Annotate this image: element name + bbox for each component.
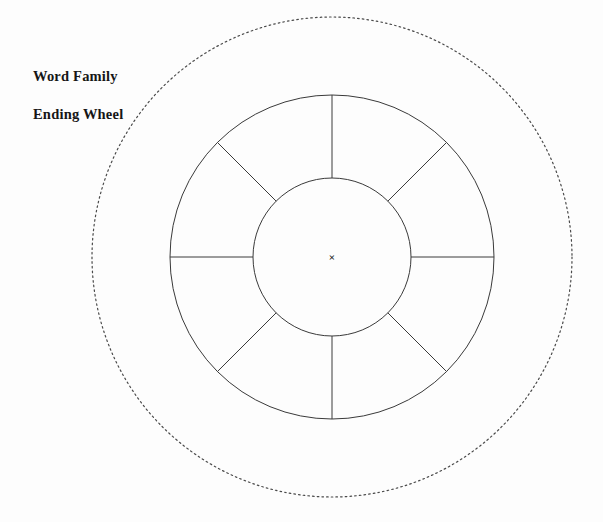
page-title-line-1: Word Family [33, 67, 123, 86]
center-cut-mark: × [329, 251, 335, 263]
spoke-down-left [217, 313, 276, 372]
spoke-up-right [388, 142, 447, 201]
page-title-line-2: Ending Wheel [33, 105, 123, 124]
page-title: Word Family Ending Wheel [33, 48, 123, 143]
spoke-down-right [388, 313, 447, 372]
spoke-up-left [217, 142, 276, 201]
worksheet-page: × Word Family Ending Wheel [0, 0, 603, 522]
